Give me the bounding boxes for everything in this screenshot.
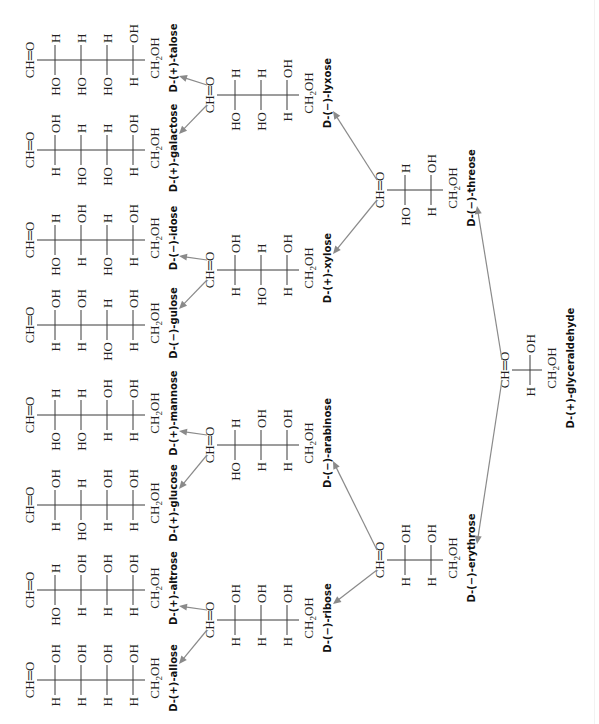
right-substituent: OH xyxy=(74,554,89,573)
left-substituent: HO xyxy=(48,257,63,276)
left-substituent: H xyxy=(254,637,269,646)
right-substituent: OH xyxy=(228,234,243,253)
left-substituent: H xyxy=(100,432,115,441)
left-substituent: HO xyxy=(74,167,89,186)
left-substituent: HO xyxy=(228,112,243,131)
sugar-name-ribose: D-(−)-ribose xyxy=(322,583,333,653)
left-substituent: H xyxy=(280,462,295,471)
right-substituent: H xyxy=(48,564,63,573)
left-substituent: HO xyxy=(228,462,243,481)
left-substituent: H xyxy=(228,287,243,296)
right-substituent: OH xyxy=(126,379,141,398)
right-substituent: OH xyxy=(126,554,141,573)
left-substituent: HO xyxy=(48,607,63,626)
fischer-arabinose: CH═OHOHHOHHOHCH2OHD-(−)-arabinose xyxy=(202,398,333,488)
left-substituent: H xyxy=(100,522,115,531)
right-substituent: H xyxy=(74,124,89,133)
left-substituent: H xyxy=(74,257,89,266)
fischer-xylose: CH═OHOHHOHHOHCH2OHD-(+)-xylose xyxy=(202,233,333,306)
right-substituent: OH xyxy=(126,114,141,133)
left-substituent: HO xyxy=(74,522,89,541)
fischer-glucose: CH═OHOHHOHHOHHOHCH2OHD-(+)-glucose xyxy=(22,464,179,542)
ch2oh-group: CH2OH xyxy=(147,37,164,78)
aldehyde-group: CH═O xyxy=(497,352,512,389)
right-substituent: OH xyxy=(228,584,243,603)
left-substituent: H xyxy=(126,522,141,531)
left-substituent: H xyxy=(126,77,141,86)
right-substituent: OH xyxy=(100,554,115,573)
arrow-erythrose-to-ribose xyxy=(338,570,377,600)
left-substituent: H xyxy=(74,342,89,351)
ch2oh-group: CH2OH xyxy=(445,537,462,578)
fischer-lyxose: CH═OHOHHOHHOHCH2OHD-(−)-lyxose xyxy=(202,58,333,131)
right-substituent: H xyxy=(100,214,115,223)
sugar-name-galactose: D-(+)-galactose xyxy=(168,103,179,192)
left-substituent: H xyxy=(48,697,63,706)
right-substituent: OH xyxy=(126,24,141,43)
right-substituent: OH xyxy=(48,289,63,308)
sugar-name-xylose: D-(+)-xylose xyxy=(322,233,333,304)
left-substituent: HO xyxy=(48,432,63,451)
right-substituent: H xyxy=(100,34,115,43)
fischer-gulose: CH═OHOHHOHHOHHOHCH2OHD-(−)-gulose xyxy=(22,287,179,361)
left-substituent: HO xyxy=(74,77,89,96)
aldehyde-group: CH═O xyxy=(22,307,37,344)
sugar-name-erythrose: D-(−)-erythrose xyxy=(466,513,477,602)
fischer-altrose: CH═OHOHHOHHOHHOHCH2OHD-(+)-altrose xyxy=(22,551,179,626)
ch2oh-group: CH2OH xyxy=(301,72,318,113)
left-substituent: H xyxy=(126,432,141,441)
right-substituent: OH xyxy=(74,644,89,663)
right-substituent: OH xyxy=(126,469,141,488)
left-substituent: H xyxy=(126,697,141,706)
right-substituent: H xyxy=(74,479,89,488)
ch2oh-group: CH2OH xyxy=(147,217,164,258)
left-substituent: HO xyxy=(398,207,413,226)
arrow-ribose-to-allose xyxy=(183,630,207,659)
arrow-arabinose-to-glucose xyxy=(183,455,207,484)
arrow-glyceraldehyde-to-threose xyxy=(478,212,502,360)
arrow-threose-to-lyxose xyxy=(336,116,377,180)
right-substituent: OH xyxy=(254,584,269,603)
right-substituent: OH xyxy=(280,234,295,253)
left-substituent: H xyxy=(398,577,413,586)
right-substituent: OH xyxy=(424,154,439,173)
right-substituent: OH xyxy=(74,289,89,308)
right-substituent: OH xyxy=(48,644,63,663)
right-substituent: H xyxy=(48,214,63,223)
right-substituent: H xyxy=(228,419,243,428)
sugar-name-glyceraldehyde: D-(+)-glyceraldehyde xyxy=(565,307,576,428)
arrow-erythrose-to-arabinose xyxy=(336,466,377,550)
fischer-galactose: CH═OHOHHOHHOHHOHCH2OHD-(+)-galactose xyxy=(22,103,179,192)
sugar-name-altrose: D-(+)-altrose xyxy=(168,551,179,625)
left-substituent: H xyxy=(48,522,63,531)
ch2oh-group: CH2OH xyxy=(301,422,318,463)
fischer-glyceraldehyde: CH═OHOHCH2OHD-(+)-glyceraldehyde xyxy=(497,307,576,428)
arrowhead-icon xyxy=(333,596,341,604)
right-substituent: OH xyxy=(48,114,63,133)
right-substituent: H xyxy=(74,34,89,43)
ch2oh-group: CH2OH xyxy=(147,127,164,168)
arrowhead-icon xyxy=(333,246,341,254)
fischer-diagram: CH═OHOHCH2OHD-(+)-glyceraldehydeCH═OHOHH… xyxy=(0,0,599,724)
left-substituent: H xyxy=(424,577,439,586)
right-substituent: OH xyxy=(523,334,538,353)
fischer-talose: CH═OHOHHOHHOHHOHCH2OHD-(+)-talose xyxy=(22,23,179,95)
arrowhead-icon xyxy=(179,254,187,261)
right-substituent: OH xyxy=(398,524,413,543)
right-substituent: H xyxy=(228,69,243,78)
fischer-allose: CH═OHOHHOHHOHHOHCH2OHD-(+)-allose xyxy=(22,644,179,712)
left-substituent: H xyxy=(280,112,295,121)
ch2oh-group: CH2OH xyxy=(544,347,561,388)
arrow-xylose-to-gulose xyxy=(183,280,207,305)
aldehyde-group: CH═O xyxy=(22,487,37,524)
ch2oh-group: CH2OH xyxy=(301,597,318,638)
right-substituent: OH xyxy=(126,204,141,223)
arrowhead-icon xyxy=(333,111,340,120)
left-substituent: H xyxy=(126,167,141,176)
right-substituent: OH xyxy=(280,584,295,603)
right-substituent: H xyxy=(100,124,115,133)
sugar-name-lyxose: D-(−)-lyxose xyxy=(322,58,333,129)
right-substituent: OH xyxy=(74,204,89,223)
right-substituent: H xyxy=(48,389,63,398)
arrowhead-icon xyxy=(179,429,187,436)
